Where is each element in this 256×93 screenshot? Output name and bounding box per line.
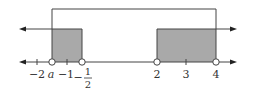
open-circle-a — [49, 59, 55, 65]
shaded-region-2-to-4 — [157, 29, 216, 62]
label-neg-2: −2 — [29, 68, 45, 81]
label-neg-1: −1 — [58, 68, 74, 81]
axis-right-arrow-icon — [230, 60, 237, 65]
label-neg-half-denominator: 2 — [85, 79, 91, 90]
shaded-region-a-to-neg-half — [52, 29, 82, 62]
open-circle-neg-half — [79, 59, 85, 65]
label-2: 2 — [154, 68, 161, 81]
label-a: a — [48, 68, 55, 81]
left-arrow-icon — [19, 27, 26, 32]
open-circle-4 — [213, 59, 219, 65]
label-neg-half-sign: − — [73, 71, 82, 84]
axis-left-arrow-icon — [19, 60, 26, 65]
label-neg-half-numerator: 1 — [85, 66, 91, 77]
label-3: 3 — [183, 68, 190, 81]
label-4: 4 — [213, 68, 220, 81]
number-line-diagram: −2 a −1 − 1 2 2 3 4 — [0, 0, 256, 93]
right-arrow-icon — [230, 27, 237, 32]
open-circle-2 — [154, 59, 160, 65]
